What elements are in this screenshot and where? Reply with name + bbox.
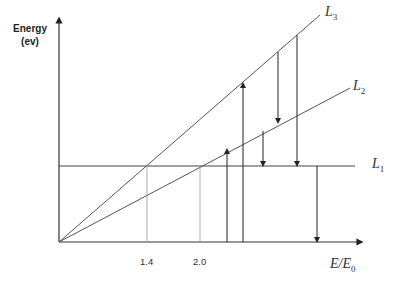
- level-l2-line: [59, 88, 350, 242]
- x-axis-label-text: E/E: [330, 256, 351, 271]
- label-l2: L2: [353, 78, 365, 96]
- level-l3-line: [59, 15, 320, 242]
- energy-diagram: [0, 0, 400, 282]
- label-l2-text: L: [353, 78, 361, 93]
- y-axis-label: Energy (ev): [0, 22, 60, 48]
- label-l2-sub: 2: [361, 86, 366, 96]
- label-l3: L3: [325, 4, 337, 22]
- y-axis-label-line1: Energy: [0, 22, 60, 35]
- tick-1-4: 1.4: [140, 256, 153, 267]
- y-axis-label-line2: (ev): [0, 35, 60, 48]
- label-l1-text: L: [372, 156, 380, 171]
- label-l3-sub: 3: [333, 12, 338, 22]
- label-l1: L1: [372, 156, 384, 174]
- label-l3-text: L: [325, 4, 333, 19]
- tick-2-0: 2.0: [193, 256, 206, 267]
- x-axis-label: E/E0: [330, 256, 356, 274]
- label-l1-sub: 1: [380, 164, 385, 174]
- x-axis-label-sub: 0: [351, 264, 356, 274]
